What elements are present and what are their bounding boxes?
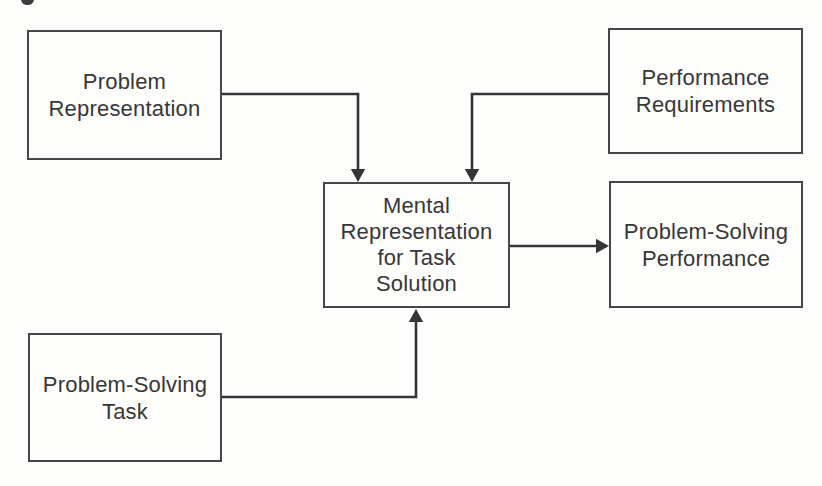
- node-problem-representation: Problem Representation: [27, 30, 222, 160]
- arrowhead-right-icon: [596, 239, 609, 253]
- node-performance-requirements-label: Performance Requirements: [636, 64, 775, 118]
- arrowhead-up-icon: [409, 309, 423, 322]
- arrowhead-down-right-icon: [465, 169, 479, 182]
- node-problem-solving-task-label: Problem-Solving Task: [43, 371, 207, 425]
- edge-problem-representation-to-mental: [222, 94, 358, 170]
- figure-canvas: Problem Representation Performance Requi…: [0, 0, 822, 486]
- node-mental-representation-label: Mental Representation for Task Solution: [340, 193, 492, 297]
- node-problem-solving-performance: Problem-Solving Performance: [609, 181, 803, 308]
- edge-problem-solving-task-to-mental: [222, 321, 416, 397]
- node-mental-representation: Mental Representation for Task Solution: [323, 182, 510, 308]
- node-performance-requirements: Performance Requirements: [608, 28, 803, 154]
- node-problem-representation-label: Problem Representation: [48, 68, 200, 122]
- arrowhead-down-left-icon: [351, 169, 365, 182]
- node-problem-solving-task: Problem-Solving Task: [28, 333, 222, 462]
- edge-performance-requirements-to-mental: [472, 94, 608, 170]
- node-problem-solving-performance-label: Problem-Solving Performance: [624, 218, 788, 272]
